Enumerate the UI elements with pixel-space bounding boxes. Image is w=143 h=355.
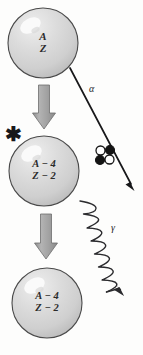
excited-state-asterisk: ✱ — [5, 124, 22, 144]
decay-arrow-2 — [35, 214, 58, 259]
daughter-nucleus-excited-sphere — [9, 136, 79, 206]
alpha-particle-cluster — [96, 146, 115, 165]
gamma-label: γ — [111, 222, 115, 233]
alpha-gamma-decay-figure: ✱ A Z A − 4 Z − 2 A − 4 Z − 2 α γ — [0, 0, 143, 355]
gamma-emission-wave — [80, 201, 121, 292]
figure-vector-layer — [0, 0, 143, 355]
alpha-label: α — [89, 83, 94, 94]
daughter-nucleus-ground-sphere — [12, 268, 82, 338]
alpha-emission-arrow — [70, 68, 135, 191]
decay-arrow-1 — [33, 85, 56, 129]
parent-nucleus-sphere — [8, 8, 78, 78]
